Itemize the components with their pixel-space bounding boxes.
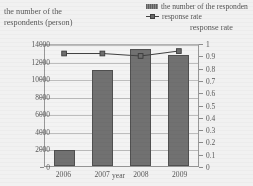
line-marker[interactable]: [138, 54, 143, 59]
y2-tick-mark: [199, 93, 203, 94]
legend-label-bars: the number of the responden: [161, 2, 248, 11]
y2-tick-mark: [199, 142, 203, 143]
y2-tick-label: 0.6: [206, 89, 215, 98]
y-tick-mark: [40, 79, 44, 80]
y-tick-mark: [40, 149, 44, 150]
y-tick-label: 2000: [10, 145, 50, 154]
x-tick-label-2009: 2009: [172, 170, 187, 179]
y-tick-mark: [40, 97, 44, 98]
y2-tick-label: 0.1: [206, 150, 215, 159]
line-marker[interactable]: [100, 51, 105, 56]
y-tick-label: 6000: [10, 110, 50, 119]
y-axis-title-line1: the number of the: [4, 6, 108, 17]
x-axis-title: year: [112, 171, 125, 180]
y-tick-mark: [40, 167, 44, 168]
y2-tick-mark: [199, 44, 203, 45]
line-marker[interactable]: [176, 49, 181, 54]
y2-tick-mark: [199, 130, 203, 131]
y2-tick-label: 1: [206, 40, 210, 49]
y-tick-mark: [40, 44, 44, 45]
y-tick-label: 0: [10, 163, 50, 172]
y2-tick-label: 0.4: [206, 113, 215, 122]
legend-line-swatch-icon: [146, 13, 159, 20]
legend-bar-swatch-icon: [146, 4, 158, 9]
x-tick-label-2006: 2006: [56, 170, 71, 179]
y-tick-mark: [40, 114, 44, 115]
y-axis-title-line2: respondents (person): [4, 17, 108, 28]
y-tick-mark: [40, 62, 44, 63]
y2-tick-mark: [199, 155, 203, 156]
y2-axis-title: response rate: [190, 23, 233, 32]
y2-tick-mark: [199, 167, 203, 168]
y2-tick-label: 0.2: [206, 138, 215, 147]
y2-tick-label: 0.3: [206, 126, 215, 135]
line-marker[interactable]: [62, 51, 67, 56]
plot-area: [44, 44, 199, 167]
y2-tick-mark: [199, 81, 203, 82]
chart-legend: the number of the responden response rat…: [146, 2, 253, 22]
y-axis-title: the number of the respondents (person): [4, 6, 108, 28]
legend-item-bars[interactable]: the number of the responden: [146, 2, 253, 11]
y-tick-label: 4000: [10, 127, 50, 136]
x-tick-label-2008: 2008: [133, 170, 148, 179]
y2-tick-mark: [199, 118, 203, 119]
legend-label-line: response rate: [162, 12, 202, 21]
x-tick-label-2007: 2007: [95, 170, 110, 179]
y-tick-label: 8000: [10, 92, 50, 101]
line-series: [45, 45, 198, 166]
response-rate-line: [64, 51, 179, 56]
y-tick-mark: [40, 132, 44, 133]
y2-tick-label: 0.5: [206, 101, 215, 110]
y-tick-label: 14000: [10, 40, 50, 49]
y2-tick-label: 0.8: [206, 64, 215, 73]
y2-tick-mark: [199, 106, 203, 107]
y2-tick-label: 0.7: [206, 76, 215, 85]
chart-container: the number of the respondents (person) t…: [0, 0, 253, 186]
y-tick-label: 10000: [10, 75, 50, 84]
y2-tick-label: 0.9: [206, 52, 215, 61]
y-tick-label: 12000: [10, 57, 50, 66]
y2-tick-mark: [199, 56, 203, 57]
y2-tick-mark: [199, 69, 203, 70]
legend-item-line[interactable]: response rate: [146, 12, 253, 21]
y2-tick-label: 0: [206, 163, 210, 172]
